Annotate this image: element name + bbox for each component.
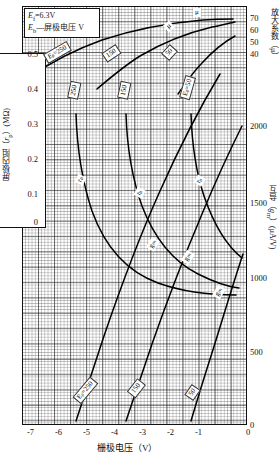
y-right-gm-title-tail: ）(μA/V) (268, 218, 277, 249)
label-mu-marker-a: μ (193, 8, 201, 17)
legend-line-filament: Ef=6.3V (28, 11, 96, 23)
ytick-rp-0: 0 (8, 218, 38, 227)
y-left-title-sym: r (2, 138, 11, 141)
y-right-mu-axis-title: 放大系数（μ） (268, 8, 279, 60)
xtick--7: -7 (27, 428, 34, 437)
y-left-title-sub: p (6, 134, 13, 137)
curve-rp-250 (76, 114, 236, 295)
legend-val-eb: —屏极电压 V (36, 23, 84, 32)
y-left-axis-title: 屏极内阻（rp）(MΩ) (1, 108, 13, 181)
curve-gm-50 (191, 254, 243, 421)
ytick-gm-2000: 2000 (250, 122, 267, 131)
ytick-mu-40: 40 (250, 50, 259, 59)
xtick--4: -4 (111, 428, 118, 437)
xtick--1: -1 (195, 428, 202, 437)
y-right-gm-axis-title: 互导（gm）(μA/V) (266, 185, 278, 249)
xtick--6: -6 (55, 428, 62, 437)
legend-line-plate: Eb—屏极电压 V (28, 23, 96, 35)
ytick-rp-0_1: 0.1 (8, 190, 38, 199)
ytick-mu-70: 70 (250, 14, 259, 23)
legend-val-ef: =6.3V (35, 11, 55, 20)
ytick-mu-60: 60 (250, 26, 259, 35)
curve-gm-150 (126, 126, 242, 421)
y-left-title-tail: ）(MΩ) (2, 108, 11, 134)
plot-area (22, 6, 247, 425)
ytick-rp-0_4: 0.4 (8, 85, 38, 94)
ytick-rp-0_5: 0.5 (8, 50, 38, 59)
y-left-title-main: 屏极内阻（ (2, 141, 11, 181)
x-axis-title: 栅极电压（V） (97, 441, 158, 454)
curve-layer (22, 6, 247, 425)
xtick-0: 0 (246, 428, 250, 437)
xtick--2: -2 (167, 428, 174, 437)
y-right-gm-title-main: 互导（ (268, 185, 277, 209)
legend-box: Ef=6.3V Eb—屏极电压 V (24, 8, 100, 38)
ytick-gm-1000: 1000 (250, 274, 267, 283)
figure-canvas: Ef=6.3V Eb—屏极电压 V 0.5 0.4 0.3 0.2 0.1 0 … (0, 0, 280, 460)
ytick-gm-0: 0 (250, 421, 254, 430)
xtick--3: -3 (139, 428, 146, 437)
curve-rp-50 (191, 114, 242, 258)
ytick-mu-50: 50 (250, 38, 259, 47)
ytick-gm-1500: 1500 (250, 199, 267, 208)
xtick--5: -5 (83, 428, 90, 437)
ytick-gm-500: 500 (250, 348, 263, 357)
